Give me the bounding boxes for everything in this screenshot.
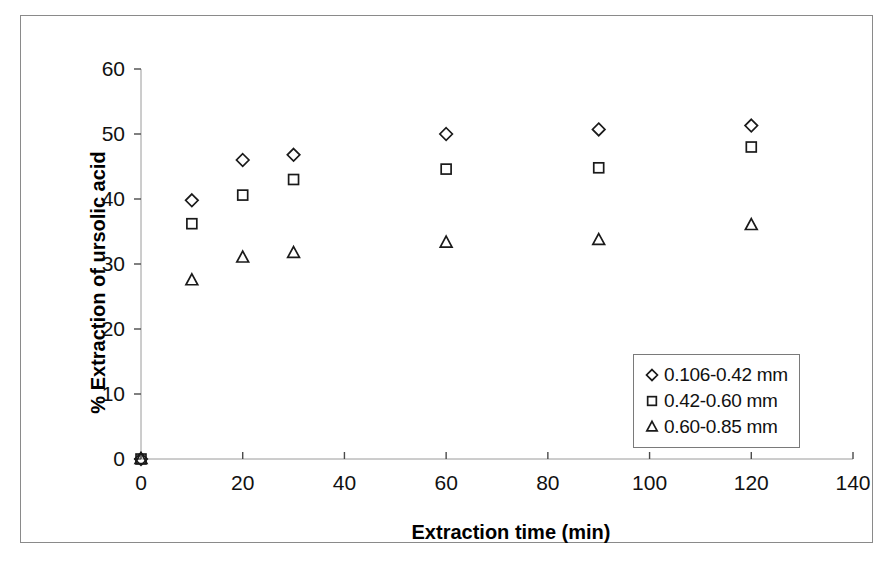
data-point-square — [594, 163, 604, 173]
x-axis-tick-label: 140 — [835, 471, 870, 495]
legend-marker-triangle-icon — [643, 418, 661, 436]
scatter-plot-canvas — [21, 16, 872, 542]
data-point-triangle — [593, 234, 605, 245]
legend-label: 0.42-0.60 mm — [664, 390, 778, 412]
x-axis-tick-label: 60 — [434, 471, 457, 495]
x-axis-tick-label: 100 — [632, 471, 667, 495]
x-axis-tick-label: 120 — [734, 471, 769, 495]
data-point-triangle — [237, 251, 249, 262]
y-axis-tick-label: 0 — [73, 447, 125, 471]
data-point-square — [441, 164, 451, 174]
data-point-triangle — [440, 236, 452, 247]
legend-item: 0.106-0.42 mm — [643, 362, 788, 388]
chart-frame: % Extraction of ursolic acid Extraction … — [20, 15, 873, 543]
data-point-diamond — [186, 194, 198, 206]
legend-item: 0.60-0.85 mm — [643, 414, 788, 440]
data-point-diamond — [647, 370, 658, 381]
x-axis-tick-label: 80 — [536, 471, 559, 495]
y-axis-tick-label: 40 — [73, 187, 125, 211]
data-point-square — [187, 219, 197, 229]
legend-label: 0.106-0.42 mm — [664, 364, 788, 386]
x-axis-tick-label: 0 — [135, 471, 147, 495]
x-axis-tick-label: 40 — [333, 471, 356, 495]
data-point-diamond — [745, 119, 757, 131]
chart-legend: 0.106-0.42 mm0.42-0.60 mm0.60-0.85 mm — [633, 354, 800, 448]
data-point-triangle — [745, 219, 757, 230]
data-point-diamond — [440, 128, 452, 140]
data-point-square — [746, 142, 756, 152]
y-axis-tick-label: 30 — [73, 252, 125, 276]
data-point-diamond — [592, 123, 604, 135]
y-axis-tick-label: 20 — [73, 317, 125, 341]
legend-item: 0.42-0.60 mm — [643, 388, 788, 414]
data-point-square — [289, 175, 299, 185]
data-point-diamond — [287, 149, 299, 161]
data-point-square — [648, 397, 657, 406]
legend-marker-diamond-icon — [643, 366, 661, 384]
data-point-triangle — [186, 274, 198, 285]
x-axis-title: Extraction time (min) — [161, 521, 861, 544]
data-point-triangle — [288, 247, 300, 258]
data-point-diamond — [236, 154, 248, 166]
y-axis-tick-label: 50 — [73, 122, 125, 146]
y-axis-tick-label: 10 — [73, 382, 125, 406]
y-axis-tick-label: 60 — [73, 57, 125, 81]
data-point-square — [238, 190, 248, 200]
x-axis-tick-label: 20 — [231, 471, 254, 495]
chart-figure: % Extraction of ursolic acid Extraction … — [0, 0, 894, 574]
data-point-triangle — [647, 421, 657, 431]
legend-label: 0.60-0.85 mm — [664, 416, 778, 438]
legend-marker-square-icon — [643, 392, 661, 410]
